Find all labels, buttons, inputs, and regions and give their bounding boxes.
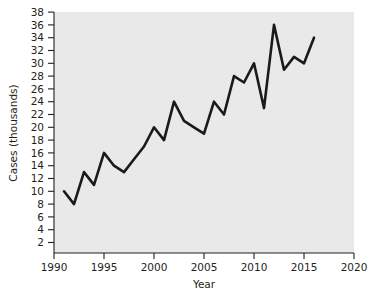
x-tick-label: 2000: [141, 261, 168, 273]
y-tick-label: 20: [31, 121, 44, 133]
x-tick-label: 1990: [41, 261, 68, 273]
y-tick-label: 16: [31, 147, 45, 159]
y-tick-label: 32: [31, 44, 44, 56]
y-tick-label: 24: [31, 95, 45, 107]
y-tick-label: 8: [37, 198, 44, 210]
x-axis-title: Year: [192, 278, 216, 290]
y-tick-label: 4: [37, 223, 44, 235]
y-tick-label: 12: [31, 172, 44, 184]
y-tick-label: 18: [31, 134, 44, 146]
x-tick-label: 2015: [291, 261, 318, 273]
x-tick-label: 2005: [191, 261, 218, 273]
y-tick-label: 26: [31, 83, 45, 95]
y-tick-label: 6: [37, 211, 44, 223]
y-tick-label: 10: [31, 185, 44, 197]
y-tick-label: 34: [31, 31, 45, 43]
x-tick-label: 1995: [91, 261, 118, 273]
x-axis-ticks: 1990 1995 2000 2005 2010 2015 2020: [41, 253, 368, 273]
y-tick-label: 28: [31, 70, 44, 82]
y-tick-label: 14: [31, 159, 45, 171]
y-tick-label: 22: [31, 108, 44, 120]
y-tick-label: 2: [37, 236, 44, 248]
y-axis-ticks: 38 36 34 32 30 28 26 24 22 20 18 16 14: [31, 6, 54, 248]
x-tick-label: 2010: [241, 261, 268, 273]
x-tick-label: 2020: [341, 261, 368, 273]
line-chart-svg: 38 36 34 32 30 28 26 24 22 20 18 16 14: [0, 0, 380, 294]
y-axis-title: Cases (thousands): [7, 84, 19, 181]
y-tick-label: 38: [31, 6, 44, 18]
chart-figure: 38 36 34 32 30 28 26 24 22 20 18 16 14: [0, 0, 380, 294]
y-tick-label: 36: [31, 19, 45, 31]
y-tick-label: 30: [31, 57, 44, 69]
